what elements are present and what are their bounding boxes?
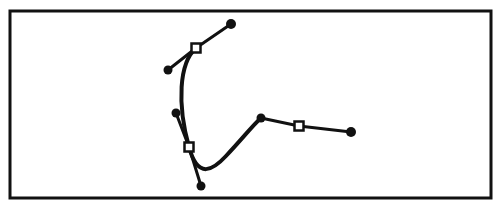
handle-in-3[interactable] xyxy=(257,114,266,123)
anchor-point-2[interactable] xyxy=(185,143,194,152)
handle-in-2[interactable] xyxy=(172,109,181,118)
canvas-background xyxy=(0,0,502,209)
vector-editor-canvas[interactable] xyxy=(0,0,502,209)
vector-artwork[interactable] xyxy=(0,0,502,209)
handle-out-1[interactable] xyxy=(226,19,236,29)
handle-in-1[interactable] xyxy=(164,66,173,75)
handle-out-2[interactable] xyxy=(197,182,206,191)
anchor-point-3[interactable] xyxy=(295,122,304,131)
anchor-point-1[interactable] xyxy=(192,44,201,53)
handle-out-3[interactable] xyxy=(346,127,356,137)
